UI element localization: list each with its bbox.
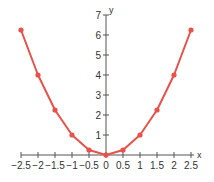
data-point-marker — [52, 107, 57, 112]
x-tick-label: 2.5 — [184, 160, 198, 171]
x-axis-title: x — [197, 150, 202, 160]
x-tick-label: −0.5 — [79, 160, 99, 171]
data-point-marker — [18, 27, 23, 32]
y-tick-label: 7 — [95, 10, 101, 21]
x-tick-label: −2 — [32, 160, 44, 171]
y-tick-label: 5 — [95, 50, 101, 61]
x-tick-label: 2 — [171, 160, 177, 171]
y-tick-label: 2 — [95, 110, 101, 121]
axes: −2.5−2−1.5−1−0.500.511.522.51234567 — [11, 10, 198, 171]
data-point-marker — [120, 147, 125, 152]
data-point-marker — [103, 152, 108, 157]
parabola-chart: −2.5−2−1.5−1−0.500.511.522.51234567 x y — [0, 0, 214, 182]
data-point-marker — [171, 72, 176, 77]
data-point-marker — [188, 27, 193, 32]
x-tick-label: −1.5 — [45, 160, 65, 171]
x-tick-label: −1 — [66, 160, 78, 171]
x-tick-label: 0.5 — [116, 160, 130, 171]
y-tick-label: 6 — [95, 30, 101, 41]
data-point-marker — [137, 132, 142, 137]
x-tick-label: 0 — [103, 160, 109, 171]
data-point-marker — [86, 147, 91, 152]
y-tick-label: 4 — [95, 70, 101, 81]
y-tick-label: 3 — [95, 90, 101, 101]
y-axis-title: y — [109, 5, 114, 15]
y-tick-label: 1 — [95, 130, 101, 141]
x-tick-label: −2.5 — [11, 160, 31, 171]
data-point-marker — [154, 107, 159, 112]
data-point-marker — [69, 132, 74, 137]
data-point-marker — [35, 72, 40, 77]
x-tick-label: 1 — [137, 160, 143, 171]
x-tick-label: 1.5 — [150, 160, 164, 171]
